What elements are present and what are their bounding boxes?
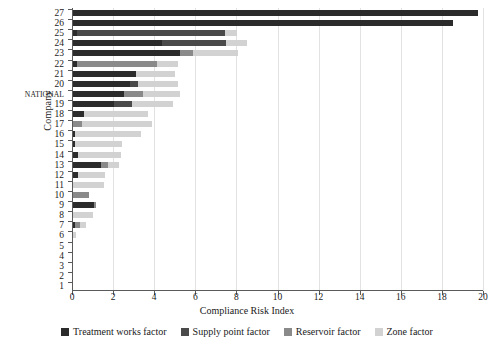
bar-segment[interactable] bbox=[226, 40, 247, 46]
bar-segment[interactable] bbox=[73, 50, 180, 56]
bar-row[interactable] bbox=[73, 162, 484, 168]
bar-row[interactable] bbox=[73, 40, 484, 46]
y-axis-tick bbox=[68, 70, 72, 71]
bar-segment[interactable] bbox=[73, 111, 84, 117]
bar-row[interactable] bbox=[73, 101, 484, 107]
bar-segment[interactable] bbox=[73, 121, 82, 127]
y-axis-tick-label: 2 bbox=[59, 271, 64, 281]
legend-item[interactable]: Reservoir factor bbox=[284, 326, 361, 337]
bar-segment[interactable] bbox=[78, 172, 106, 178]
bar-segment[interactable] bbox=[132, 101, 173, 107]
bar-row[interactable] bbox=[73, 121, 484, 127]
legend-item[interactable]: Treatment works factor bbox=[61, 326, 167, 337]
bar-segment[interactable] bbox=[73, 10, 478, 16]
bar-segment[interactable] bbox=[73, 212, 93, 218]
y-axis-tick-label: 27 bbox=[55, 8, 65, 18]
y-axis-tick bbox=[68, 120, 72, 121]
y-axis-tick bbox=[68, 151, 72, 152]
y-axis-tick bbox=[68, 171, 72, 172]
bar-row[interactable] bbox=[73, 172, 484, 178]
bar-segment[interactable] bbox=[73, 101, 114, 107]
bar-segment[interactable] bbox=[73, 20, 453, 26]
bar-row[interactable] bbox=[73, 111, 484, 117]
bar-row[interactable] bbox=[73, 131, 484, 137]
legend-item[interactable]: Zone factor bbox=[375, 326, 433, 337]
bar-row[interactable] bbox=[73, 202, 484, 208]
bar-row[interactable] bbox=[73, 192, 484, 198]
bar-row[interactable] bbox=[73, 222, 484, 228]
y-axis-tick-label: 22 bbox=[55, 59, 65, 69]
bar-row[interactable] bbox=[73, 141, 484, 147]
bar-segment[interactable] bbox=[75, 141, 122, 147]
bar-segment[interactable] bbox=[193, 50, 238, 56]
y-axis-tick-label: 25 bbox=[55, 28, 65, 38]
bar-segment[interactable] bbox=[73, 232, 76, 238]
y-axis-tick-label: 8 bbox=[59, 210, 64, 220]
bar-segment[interactable] bbox=[73, 81, 130, 87]
y-axis-tick bbox=[68, 231, 72, 232]
bar-segment[interactable] bbox=[73, 202, 94, 208]
x-axis-tick-label: 10 bbox=[263, 292, 293, 302]
legend-swatch-icon bbox=[284, 328, 292, 336]
bar-segment[interactable] bbox=[94, 202, 96, 208]
bar-row[interactable] bbox=[73, 263, 484, 269]
y-axis-tick bbox=[68, 29, 72, 30]
legend-item[interactable]: Supply point factor bbox=[181, 326, 270, 337]
y-axis-tick bbox=[68, 100, 72, 101]
bar-row[interactable] bbox=[73, 91, 484, 97]
chart-legend: Treatment works factorSupply point facto… bbox=[0, 326, 494, 337]
bar-segment[interactable] bbox=[82, 121, 152, 127]
bar-segment[interactable] bbox=[75, 131, 141, 137]
bar-row[interactable] bbox=[73, 182, 484, 188]
bar-segment[interactable] bbox=[180, 50, 193, 56]
bar-segment[interactable] bbox=[73, 162, 101, 168]
bar-segment[interactable] bbox=[73, 182, 104, 188]
bar-row[interactable] bbox=[73, 30, 484, 36]
x-axis-tick-label: 16 bbox=[386, 292, 416, 302]
bar-row[interactable] bbox=[73, 152, 484, 158]
bar-segment[interactable] bbox=[77, 30, 225, 36]
x-axis-tick-label: 6 bbox=[180, 292, 210, 302]
bar-segment[interactable] bbox=[136, 71, 175, 77]
bar-row[interactable] bbox=[73, 243, 484, 249]
bar-segment[interactable] bbox=[73, 91, 124, 97]
bar-segment[interactable] bbox=[225, 30, 237, 36]
bar-segment[interactable] bbox=[101, 162, 108, 168]
y-axis-tick-label: 17 bbox=[55, 119, 65, 129]
bar-segment[interactable] bbox=[130, 81, 138, 87]
bar-segment[interactable] bbox=[108, 162, 119, 168]
bar-segment[interactable] bbox=[77, 61, 157, 67]
bar-row[interactable] bbox=[73, 212, 484, 218]
bar-segment[interactable] bbox=[73, 40, 162, 46]
y-axis-tick bbox=[68, 80, 72, 81]
y-axis-tick-label: 16 bbox=[55, 129, 65, 139]
bar-segment[interactable] bbox=[73, 192, 89, 198]
y-axis-tick-label: 12 bbox=[55, 170, 65, 180]
bar-segment[interactable] bbox=[162, 40, 226, 46]
bar-row[interactable] bbox=[73, 71, 484, 77]
bar-segment[interactable] bbox=[114, 101, 131, 107]
bar-segment[interactable] bbox=[84, 111, 148, 117]
x-axis-tick-label: 14 bbox=[345, 292, 375, 302]
y-axis-tick-label: 7 bbox=[59, 220, 64, 230]
bar-segment[interactable] bbox=[80, 222, 86, 228]
y-axis-tick-label: 23 bbox=[55, 48, 65, 58]
bar-segment[interactable] bbox=[78, 152, 121, 158]
bar-row[interactable] bbox=[73, 232, 484, 238]
bar-segment[interactable] bbox=[124, 91, 142, 97]
bar-row[interactable] bbox=[73, 10, 484, 16]
bar-segment[interactable] bbox=[143, 91, 180, 97]
bar-segment[interactable] bbox=[157, 61, 178, 67]
bar-row[interactable] bbox=[73, 61, 484, 67]
bar-row[interactable] bbox=[73, 50, 484, 56]
y-axis-tick-label: 1 bbox=[59, 281, 64, 291]
y-axis-tick-label: 15 bbox=[55, 139, 65, 149]
y-axis-tick-labels: 2726252423222120NATIONAL1918171615141312… bbox=[0, 8, 70, 291]
bar-row[interactable] bbox=[73, 273, 484, 279]
bar-row[interactable] bbox=[73, 253, 484, 259]
bar-row[interactable] bbox=[73, 20, 484, 26]
bar-segment[interactable] bbox=[138, 81, 178, 87]
bar-segment[interactable] bbox=[73, 71, 136, 77]
bar-row[interactable] bbox=[73, 81, 484, 87]
bar-row[interactable] bbox=[73, 283, 484, 289]
